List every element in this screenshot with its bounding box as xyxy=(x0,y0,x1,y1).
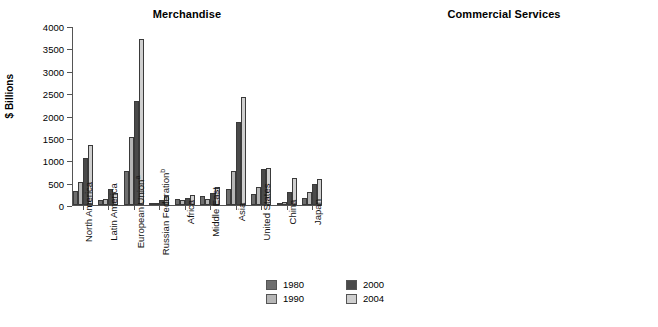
chart-title-merchandise: Merchandise xyxy=(0,8,340,20)
bar xyxy=(241,97,246,205)
legend-label-2004: 2004 xyxy=(363,294,384,304)
x-axis-category-label: Russian Federationb xyxy=(159,169,171,255)
y-tick-merchandise-4000 xyxy=(67,27,72,28)
bar-group xyxy=(200,27,220,205)
x-axis-category-label: Asia xyxy=(236,203,247,221)
y-tick-label-merchandise-3000: 3000 xyxy=(43,66,64,77)
y-tick-merchandise-1500 xyxy=(67,139,72,140)
y-tick-merchandise-0 xyxy=(67,206,72,207)
chart-panel-commercial-services: Commercial Services $ Billions 020040060… xyxy=(340,0,658,285)
bar-group xyxy=(277,27,297,205)
y-tick-merchandise-2000 xyxy=(67,117,72,118)
y-tick-label-merchandise-0: 0 xyxy=(59,201,64,212)
x-axis-category-label: China xyxy=(287,200,298,225)
y-axis-label-merchandise: $ Billions xyxy=(4,74,15,118)
plot-area-merchandise: 05001000150020002500300035004000 North A… xyxy=(72,27,322,206)
x-axis-category-label: Africa xyxy=(185,200,196,224)
y-tick-merchandise-2500 xyxy=(67,94,72,95)
chart-legend: 1980200019902004 xyxy=(266,280,406,304)
y-tick-label-merchandise-2500: 2500 xyxy=(43,89,64,100)
legend-item-1980[interactable]: 1980 xyxy=(266,280,326,290)
y-tick-merchandise-500 xyxy=(67,184,72,185)
legend-swatch-2004 xyxy=(346,294,357,304)
y-tick-merchandise-1000 xyxy=(67,161,72,162)
y-tick-label-merchandise-500: 500 xyxy=(48,178,64,189)
bar-series-merchandise xyxy=(73,27,322,205)
x-axis-category-label: European Uniona xyxy=(134,176,146,249)
y-tick-label-merchandise-2000: 2000 xyxy=(43,111,64,122)
legend-swatch-1990 xyxy=(266,294,277,304)
y-tick-label-merchandise-1000: 1000 xyxy=(43,156,64,167)
x-axis-category-label: Latin America xyxy=(108,183,119,241)
legend-swatch-1980 xyxy=(266,280,277,290)
bar-group xyxy=(226,27,246,205)
legend-item-2004[interactable]: 2004 xyxy=(346,294,406,304)
legend-label-1990: 1990 xyxy=(283,294,304,304)
x-axis-category-label: United States xyxy=(261,183,272,240)
x-axis-category-label: Japan xyxy=(312,199,323,225)
x-axis-category-label: Middle East xyxy=(210,187,221,237)
chart-panel-merchandise: Merchandise $ Billions 05001000150020002… xyxy=(0,0,340,285)
y-tick-label-merchandise-1500: 1500 xyxy=(43,133,64,144)
y-tick-label-merchandise-3500: 3500 xyxy=(43,44,64,55)
y-tick-label-merchandise-4000: 4000 xyxy=(43,22,64,33)
legend-swatch-2000 xyxy=(346,280,357,290)
bar-group xyxy=(251,27,271,205)
bar-group xyxy=(98,27,118,205)
bar-group xyxy=(73,27,93,205)
chart-figure: Merchandise $ Billions 05001000150020002… xyxy=(0,0,658,327)
legend-item-1990[interactable]: 1990 xyxy=(266,294,326,304)
x-axis-category-label: North America xyxy=(83,182,94,242)
bar-group xyxy=(302,27,322,205)
chart-title-commercial-services: Commercial Services xyxy=(340,8,658,20)
legend-label-2000: 2000 xyxy=(363,280,384,290)
bar-group xyxy=(175,27,195,205)
legend-item-2000[interactable]: 2000 xyxy=(346,280,406,290)
y-tick-merchandise-3500 xyxy=(67,49,72,50)
y-tick-merchandise-3000 xyxy=(67,72,72,73)
legend-label-1980: 1980 xyxy=(283,280,304,290)
